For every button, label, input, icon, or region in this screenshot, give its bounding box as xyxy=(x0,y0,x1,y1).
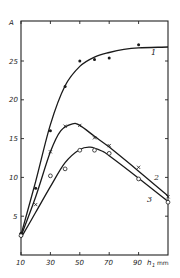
x-tick-label: 70 xyxy=(104,259,113,267)
x-tick-label: 30 xyxy=(46,259,55,267)
data-point-dot xyxy=(108,56,111,59)
y-axis-label: A xyxy=(8,19,14,27)
y-tick-label: 15 xyxy=(9,135,18,143)
data-point-cross xyxy=(137,166,140,169)
x-tick-label: 90 xyxy=(133,259,142,267)
data-point-dot xyxy=(64,85,67,88)
curve-1 xyxy=(21,47,168,235)
data-markers xyxy=(19,43,170,237)
x-tick-labels: 10 30 50 70 90 xyxy=(16,259,142,267)
x-tick-label: 50 xyxy=(75,259,84,267)
data-point-circle xyxy=(93,148,97,152)
data-point-dot xyxy=(49,129,52,132)
data-point-circle xyxy=(78,148,82,152)
data-point-circle xyxy=(166,200,170,204)
curve-2 xyxy=(21,123,168,236)
curve-label-3: 3 xyxy=(147,195,152,204)
y-tick-labels: 5 10 15 20 25 xyxy=(9,58,18,221)
curve-label-2: 2 xyxy=(153,173,159,182)
data-point-dot xyxy=(93,58,96,61)
data-point-dot xyxy=(137,43,140,46)
data-point-circle xyxy=(63,167,67,171)
data-point-circle xyxy=(137,177,141,181)
curve-3 xyxy=(21,147,168,238)
x-axis-unit: mm xyxy=(157,259,169,266)
data-curves xyxy=(21,47,168,238)
data-point-circle xyxy=(107,151,111,155)
chart-canvas: A 10 30 50 70 90 h 1 mm 5 10 15 20 25 1 … xyxy=(0,0,180,278)
data-point-dot xyxy=(78,60,81,63)
y-tick-label: 5 xyxy=(13,213,18,221)
y-tick-label: 20 xyxy=(9,96,18,104)
x-tick-label: 10 xyxy=(16,259,25,267)
curve-label-1: 1 xyxy=(151,48,156,57)
data-point-cross xyxy=(34,203,37,206)
x-axis-title: h 1 mm xyxy=(147,259,169,268)
x-axis-subscript: 1 xyxy=(152,262,155,268)
data-point-dot xyxy=(34,187,37,190)
data-point-circle xyxy=(49,174,53,178)
y-tick-label: 25 xyxy=(9,58,18,66)
y-tick-label: 10 xyxy=(9,174,18,182)
data-point-circle xyxy=(19,234,23,238)
x-axis-symbol: h xyxy=(147,259,151,267)
